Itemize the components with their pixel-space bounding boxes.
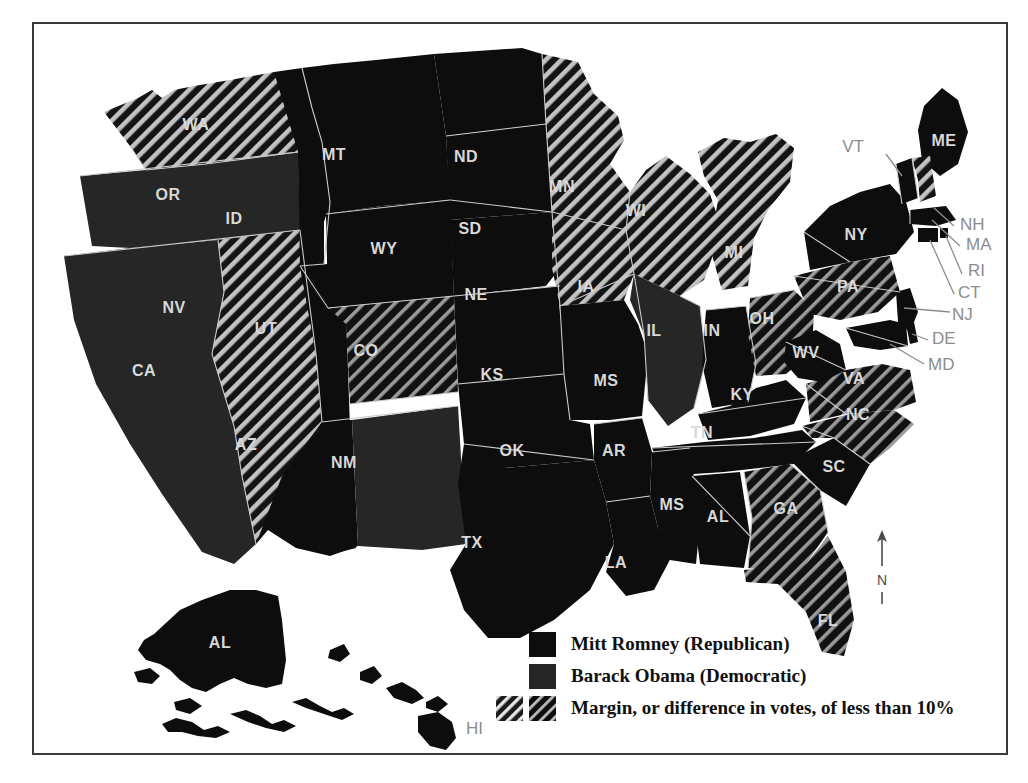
north-arrow-label: N [877, 572, 887, 588]
label-MN: MN [549, 178, 575, 195]
legend-swatch-obama [529, 664, 556, 689]
legend-row-romney[interactable]: Mitt Romney (Republican) [496, 628, 954, 660]
label-KS: KS [480, 366, 503, 383]
contiguous-us-group: WA OR CA NV ID MT WY UT AZ CO NM ND SD N… [64, 48, 992, 656]
state-DE[interactable] [906, 322, 918, 344]
label-VA: VA [843, 370, 865, 387]
state-AK[interactable] [134, 590, 286, 714]
state-MD[interactable] [846, 320, 908, 350]
legend-swatch-romney [529, 632, 556, 657]
legend-row-margin[interactable]: Margin, or difference in votes, of less … [496, 692, 954, 724]
label-NM: NM [331, 454, 357, 471]
legend-label-obama: Barack Obama (Democratic) [571, 665, 806, 687]
leader-MD [890, 344, 924, 364]
label-CT: CT [958, 283, 981, 302]
label-ND: ND [454, 148, 478, 165]
label-UT: UT [255, 320, 277, 337]
hawaii-inset-group: HI [328, 644, 483, 750]
state-CT[interactable] [918, 228, 938, 242]
label-IN: IN [704, 322, 721, 339]
north-arrow: N [877, 530, 887, 604]
state-AR[interactable] [594, 418, 652, 502]
label-MD: MD [928, 355, 954, 374]
label-DE: DE [932, 329, 956, 348]
label-NV: NV [162, 299, 185, 316]
label-NY: NY [844, 226, 867, 243]
state-ND[interactable] [434, 48, 546, 136]
label-TX: TX [461, 534, 482, 551]
label-CO: CO [354, 342, 379, 359]
label-OR: OR [156, 186, 181, 203]
legend-swatch-margin-light [496, 696, 523, 721]
label-PA: PA [837, 278, 859, 295]
label-ME: ME [932, 132, 957, 149]
state-MO[interactable] [558, 300, 648, 420]
label-AR: AR [602, 442, 626, 459]
label-CA: CA [132, 362, 156, 379]
label-NC: NC [846, 406, 870, 423]
label-MT: MT [322, 146, 346, 163]
label-MI: MI [725, 244, 744, 261]
label-MO: MS [594, 372, 619, 389]
label-RI: RI [968, 261, 985, 280]
label-KY: KY [730, 386, 753, 403]
legend-row-obama[interactable]: Barack Obama (Democratic) [496, 660, 954, 692]
label-IA: IA [578, 278, 595, 295]
label-NH: NH [960, 215, 985, 234]
state-MA[interactable] [910, 206, 956, 226]
label-SC: SC [822, 458, 845, 475]
alaska-inset-group: AL [134, 590, 354, 738]
label-NE: NE [464, 286, 487, 303]
label-SD: SD [458, 220, 481, 237]
label-MA: MA [966, 235, 992, 254]
label-AL: AL [707, 508, 729, 525]
label-WV: WV [793, 344, 820, 361]
label-MS: MS [660, 496, 685, 513]
label-WY: WY [371, 240, 398, 257]
label-LA: LA [605, 554, 627, 571]
map-frame: WA OR CA NV ID MT WY UT AZ CO NM ND SD N… [32, 22, 1008, 755]
label-TN: TN [691, 424, 713, 441]
leader-RI [946, 236, 962, 274]
legend-spacer-obama [496, 676, 529, 677]
label-HI: HI [466, 719, 483, 738]
legend-label-margin: Margin, or difference in votes, of less … [571, 697, 954, 719]
map-legend: Mitt Romney (Republican) Barack Obama (D… [496, 628, 954, 724]
label-FL: FL [818, 612, 839, 629]
legend-spacer-romney [496, 644, 529, 645]
state-MN[interactable] [542, 54, 630, 230]
label-ID: ID [226, 210, 243, 227]
state-NM[interactable] [352, 406, 466, 550]
label-IL: IL [646, 322, 661, 339]
state-HI[interactable] [328, 644, 456, 750]
label-AK: AL [209, 634, 231, 651]
label-AZ: AZ [235, 436, 257, 453]
label-NJ: NJ [952, 305, 973, 324]
label-WI: WI [626, 202, 647, 219]
label-WA: WA [183, 116, 210, 133]
legend-label-romney: Mitt Romney (Republican) [571, 633, 789, 655]
label-OK: OK [500, 442, 525, 459]
label-GA: GA [774, 500, 799, 517]
legend-swatch-margin-dark [529, 696, 556, 721]
label-OH: OH [750, 310, 775, 327]
label-VT: VT [842, 137, 864, 156]
